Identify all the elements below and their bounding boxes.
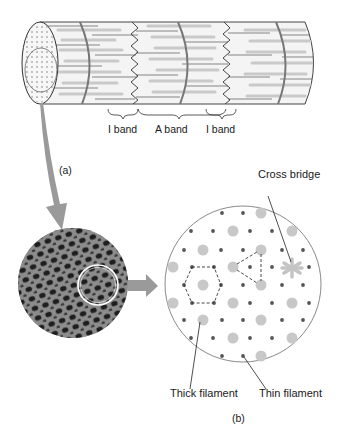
thin-filament-dot (248, 301, 252, 305)
thin-filament-dot (241, 211, 245, 215)
arrow-to-lattice (128, 274, 158, 297)
thin-filament-dot (301, 283, 305, 287)
thick-filament-dot (198, 245, 209, 256)
thick-filament-dot (256, 315, 267, 326)
thick-filament-dot (287, 298, 298, 309)
thick-filament-label: Thick filament (170, 387, 238, 399)
thin-filament-dot (301, 318, 305, 322)
thin-filament-dot (280, 318, 284, 322)
thin-filament-dot (270, 301, 274, 305)
panel-b-label: (b) (232, 412, 245, 424)
thin-filament-dot (211, 229, 215, 233)
band-braces (108, 109, 236, 119)
electron-micrograph (18, 228, 128, 338)
thin-filament-dot (307, 265, 311, 269)
muscle-filament-diagram: I band A band I band (a) Cross bridge Th… (0, 0, 340, 441)
thin-filament-dot (182, 248, 186, 252)
thin-filament-dot (219, 248, 223, 252)
thick-filament-dot (228, 226, 239, 237)
thin-filament-label: Thin filament (259, 387, 322, 399)
cross-bridge-label: Cross bridge (258, 168, 320, 180)
thick-filament-dot (228, 262, 239, 273)
thin-filament-dot (248, 229, 252, 233)
thick-filament-dot (256, 245, 267, 256)
i-band-label-right: I band (206, 123, 235, 135)
thick-filament-dot (287, 333, 298, 344)
thin-filament-dot (189, 229, 193, 233)
thick-filament-dot (198, 315, 209, 326)
thick-filament-dot (256, 280, 267, 291)
thin-filament-dot (307, 301, 311, 305)
thick-filament-dot (256, 351, 267, 362)
thin-filament-dot (220, 318, 224, 322)
thick-filament-dot (256, 208, 267, 219)
thick-filament-dot (168, 262, 179, 273)
panel-a-label: (a) (59, 164, 72, 176)
muscle-fiber-cylinder (22, 22, 320, 104)
thick-filament-dot (168, 298, 179, 309)
thin-filament-dot (270, 229, 274, 233)
cross-bridge-star (282, 259, 302, 277)
thin-filament-dot (270, 336, 274, 340)
thick-filament-dot (198, 280, 209, 291)
thin-filament-dot (280, 283, 284, 287)
thin-filament-dot (270, 265, 274, 269)
thin-filament-dot (301, 248, 305, 252)
filament-lattice-cross-section (165, 206, 321, 362)
thin-filament-dot (248, 265, 252, 269)
thin-filament-dot (280, 248, 284, 252)
thick-filament-dot (228, 298, 239, 309)
thin-filament-dot (182, 318, 186, 322)
thin-filament-dot (241, 318, 245, 322)
a-band-label: A band (155, 123, 188, 135)
thin-filament-dot (241, 283, 245, 287)
thin-filament-dot (248, 336, 252, 340)
thin-filament-dot (189, 336, 193, 340)
thin-filament-dot (220, 211, 224, 215)
thin-filament-dot (241, 248, 245, 252)
thick-filament-dot (287, 226, 298, 237)
thin-filament-dot (211, 336, 215, 340)
i-band-label-left: I band (108, 123, 137, 135)
thick-filament-dot (228, 333, 239, 344)
thin-filament-dot (220, 354, 224, 358)
